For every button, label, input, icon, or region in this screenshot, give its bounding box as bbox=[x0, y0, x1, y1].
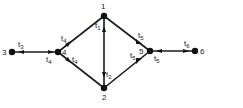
edge-label-t3: t3 bbox=[18, 40, 24, 50]
node-1 bbox=[101, 13, 107, 19]
node-2 bbox=[101, 85, 107, 91]
edge-label-t5-lower: t5 bbox=[130, 51, 136, 61]
edge-label-t4-lower: t4 bbox=[72, 55, 78, 65]
edge-label-t6: t6 bbox=[184, 39, 190, 49]
arrow-icon bbox=[183, 49, 189, 53]
edge-label-t2: t2 bbox=[106, 70, 112, 80]
edge-label-t4-bottom: t4 bbox=[46, 55, 52, 65]
edge-label-t5-right: t5 bbox=[154, 54, 160, 64]
node-label-6: 6 bbox=[200, 47, 205, 56]
network-diagram: 1 2 3 4 5 6 t3 t4 t4 t4 t1 t2 t5 t5 t5 t… bbox=[0, 0, 243, 108]
edge-label-t1: t1 bbox=[95, 21, 101, 31]
node-5 bbox=[147, 48, 153, 54]
arrow-icon bbox=[48, 50, 54, 54]
node-label-3: 3 bbox=[2, 48, 7, 57]
node-6 bbox=[192, 48, 198, 54]
edge-1-5 bbox=[104, 16, 150, 51]
arrow-icon bbox=[18, 50, 24, 54]
edge-4-2 bbox=[58, 52, 104, 88]
edges bbox=[12, 16, 195, 88]
node-3 bbox=[9, 49, 15, 55]
node-label-2: 2 bbox=[102, 93, 107, 102]
arrow-icon bbox=[156, 49, 162, 53]
node-label-4: 4 bbox=[62, 48, 67, 57]
edge-2-5 bbox=[104, 51, 150, 88]
arrow-icon bbox=[102, 26, 106, 32]
node-4 bbox=[55, 49, 61, 55]
edge-label-t4-upper: t4 bbox=[61, 34, 67, 44]
edge-label-t5-upper: t5 bbox=[138, 31, 144, 41]
node-label-5: 5 bbox=[139, 47, 144, 56]
node-label-1: 1 bbox=[101, 2, 106, 11]
